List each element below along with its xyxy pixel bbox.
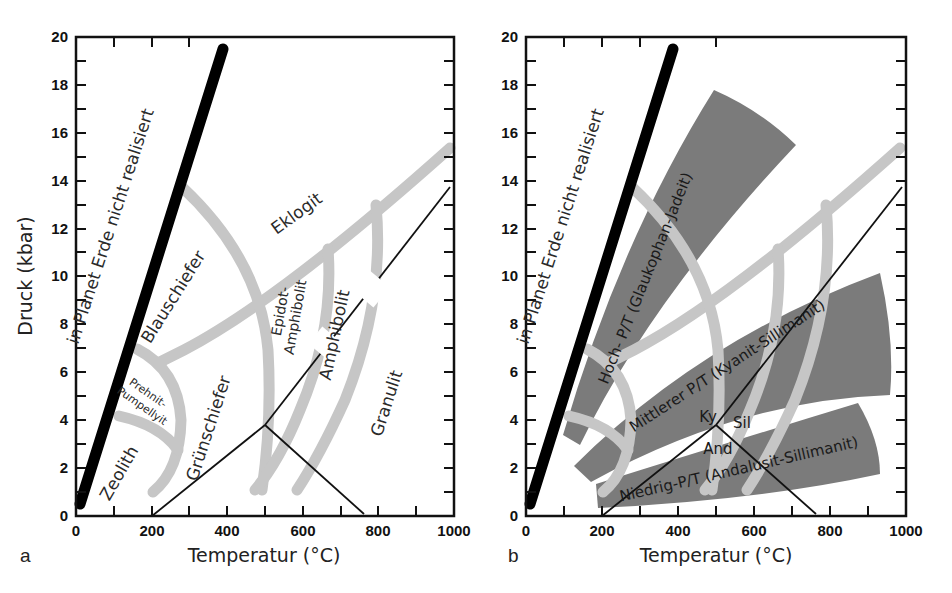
eklogit-label: Eklogit xyxy=(267,188,326,238)
label-gap xyxy=(346,264,390,307)
x-axis-title-b: Temperatur (°C) xyxy=(639,544,793,566)
svg-text:200: 200 xyxy=(589,522,614,539)
svg-text:600: 600 xyxy=(741,522,766,539)
svg-text:14: 14 xyxy=(51,172,68,189)
x-tick-labels-b: 0 200 400 600 800 1000 xyxy=(522,522,923,539)
svg-text:0: 0 xyxy=(510,507,518,524)
gruenschiefer-label: Grünschiefer xyxy=(182,373,235,483)
svg-text:6: 6 xyxy=(510,363,518,380)
svg-text:16: 16 xyxy=(501,124,518,141)
svg-text:0: 0 xyxy=(72,522,80,539)
svg-text:400: 400 xyxy=(214,522,239,539)
panel-b: 0 200 400 600 800 1000 0 2 4 6 8 10 12 1… xyxy=(501,28,922,566)
metamorphic-facies-figure: 0 200 400 600 800 1000 0 2 4 6 8 10 12 1… xyxy=(0,0,952,593)
svg-text:600: 600 xyxy=(290,522,315,539)
svg-text:10: 10 xyxy=(501,267,518,284)
sillimanite-label: Sil xyxy=(733,414,751,432)
kyanite-label: Ky xyxy=(699,408,717,426)
panel-a: 0 200 400 600 800 1000 0 2 4 6 8 10 12 1… xyxy=(14,28,471,566)
andalusite-label: And xyxy=(703,440,732,458)
svg-text:0: 0 xyxy=(522,522,530,539)
y-tick-labels-b: 0 2 4 6 8 10 12 14 16 18 20 xyxy=(501,28,518,524)
svg-text:14: 14 xyxy=(501,172,518,189)
svg-text:10: 10 xyxy=(51,267,68,284)
svg-text:1000: 1000 xyxy=(889,522,922,539)
granulit-label: Granulit xyxy=(366,367,406,438)
svg-text:4: 4 xyxy=(510,411,519,428)
x-tick-labels-a: 0 200 400 600 800 1000 xyxy=(72,522,471,539)
y-axis-title-a: Druck (kbar) xyxy=(14,216,36,335)
svg-text:2: 2 xyxy=(510,459,518,476)
svg-text:2: 2 xyxy=(60,459,68,476)
svg-text:1000: 1000 xyxy=(437,522,470,539)
svg-text:20: 20 xyxy=(51,28,68,45)
svg-text:400: 400 xyxy=(665,522,690,539)
svg-text:0: 0 xyxy=(60,507,68,524)
svg-text:16: 16 xyxy=(51,124,68,141)
panel-letter-b: b xyxy=(508,545,519,566)
svg-text:18: 18 xyxy=(501,76,518,93)
svg-text:800: 800 xyxy=(817,522,842,539)
svg-text:20: 20 xyxy=(501,28,518,45)
svg-text:800: 800 xyxy=(365,522,390,539)
panel-letter-a: a xyxy=(20,545,31,566)
svg-text:12: 12 xyxy=(501,220,518,237)
x-axis-title-a: Temperatur (°C) xyxy=(187,544,341,566)
zeolith-label: Zeolith xyxy=(95,442,142,503)
svg-text:12: 12 xyxy=(51,220,68,237)
y-tick-labels-a: 0 2 4 6 8 10 12 14 16 18 20 xyxy=(51,28,68,524)
svg-text:6: 6 xyxy=(60,363,68,380)
svg-text:4: 4 xyxy=(60,411,69,428)
and-sil-line xyxy=(265,425,364,514)
svg-text:18: 18 xyxy=(51,76,68,93)
svg-text:200: 200 xyxy=(139,522,164,539)
